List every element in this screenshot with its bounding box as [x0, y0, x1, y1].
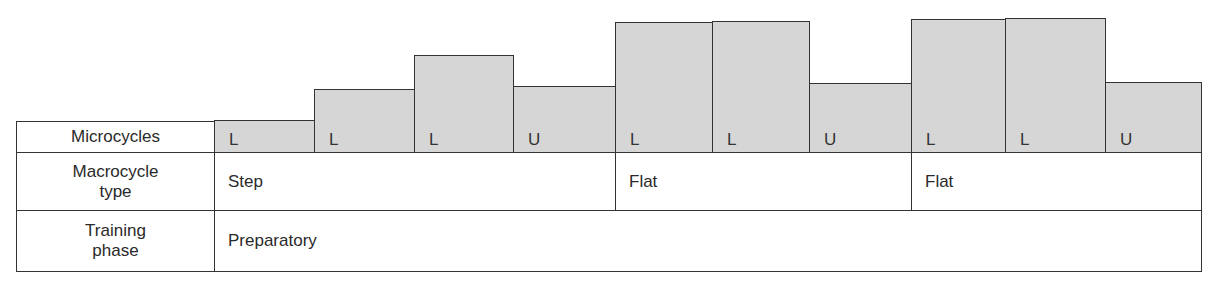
macrocycle-cell: Step: [214, 152, 616, 211]
microcycle-label: L: [229, 130, 238, 150]
macrocycle-label-line1: Macrocycle: [73, 162, 159, 182]
microcycle-label: U: [824, 130, 836, 150]
microcycle-label: L: [429, 130, 438, 150]
training-phase-value: Preparatory: [228, 231, 317, 251]
row-header-macrocycle-type: Macrocycle type: [16, 152, 215, 211]
macrocycle-type-value: Flat: [925, 172, 953, 192]
training-label-line2: phase: [92, 241, 138, 261]
microcycle-bar: L: [1005, 18, 1106, 153]
row-header-training-phase: Training phase: [16, 210, 215, 272]
microcycle-bar: U: [513, 86, 616, 153]
microcycle-bar: L: [314, 89, 415, 153]
macrocycle-label-line2: type: [99, 182, 131, 202]
microcycle-label: U: [1120, 130, 1132, 150]
macrocycle-cell: Flat: [615, 152, 912, 211]
training-label-line1: Training: [85, 221, 146, 241]
microcycle-bar: L: [214, 120, 315, 153]
macrocycle-cell: Flat: [911, 152, 1202, 211]
microcycle-bar: L: [615, 22, 713, 153]
microcycles-label: Microcycles: [71, 127, 160, 147]
macrocycle-type-value: Flat: [629, 172, 657, 192]
microcycle-label: U: [528, 130, 540, 150]
microcycle-bar: U: [809, 83, 912, 153]
microcycle-label: L: [926, 130, 935, 150]
microcycle-bar: L: [911, 19, 1006, 153]
microcycle-label: L: [1020, 130, 1029, 150]
microcycle-bar: U: [1105, 82, 1202, 153]
microcycle-label: L: [329, 130, 338, 150]
microcycle-bar: L: [712, 21, 810, 153]
training-phase-cell: Preparatory: [214, 210, 1202, 272]
microcycle-label: L: [727, 130, 736, 150]
microcycle-bar: L: [414, 55, 514, 153]
macrocycle-type-value: Step: [228, 172, 263, 192]
row-header-microcycles: Microcycles: [16, 121, 215, 153]
microcycle-label: L: [630, 130, 639, 150]
